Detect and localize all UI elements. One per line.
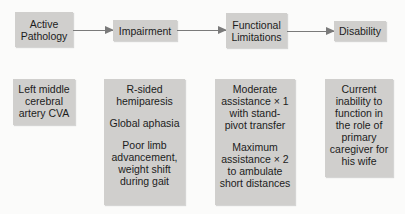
detail-line: assistance × 2 <box>220 153 291 165</box>
detail-paragraph: Current inability to function in the rol… <box>330 83 388 167</box>
detail-line: function in <box>330 107 388 119</box>
detail-line: with stand- <box>221 107 288 119</box>
detail-line: Poor limb <box>112 139 178 151</box>
detail-paragraph: Left middle cerebral artery CVA <box>18 83 69 119</box>
detail-line: assistance × 1 <box>221 95 288 107</box>
detail-line: R-sided <box>116 83 173 95</box>
detail-line: during gait <box>112 175 178 187</box>
detail-paragraph: Poor limb advancement, weight shift duri… <box>112 139 178 187</box>
detail-line: primary <box>330 131 388 143</box>
detail-line: pivot transfer <box>221 119 288 131</box>
detail-line: caregiver for <box>330 143 388 155</box>
detail-line: inability to <box>330 95 388 107</box>
detail-line: to ambulate <box>220 165 291 177</box>
detail-line: hemiparesis <box>116 95 173 107</box>
header-impairment: Impairment <box>113 20 177 41</box>
detail-line: short distances <box>220 177 291 189</box>
detail-line: Maximum <box>220 141 291 153</box>
detail-paragraph: Maximum assistance × 2 to ambulate short… <box>220 141 291 189</box>
header-text: Disability <box>339 25 381 37</box>
detail-functional-limitations: Moderate assistance × 1 with stand- pivo… <box>215 79 295 205</box>
header-disability: Disability <box>334 21 386 41</box>
header-text: Pathology <box>21 30 68 42</box>
header-active-pathology: Active Pathology <box>15 12 73 47</box>
detail-line: Moderate <box>221 83 288 95</box>
header-functional-limitations: Functional Limitations <box>226 13 287 48</box>
arrow-right <box>287 31 334 32</box>
arrow-right <box>177 30 226 31</box>
detail-line: advancement, <box>112 151 178 163</box>
detail-line: artery CVA <box>18 107 69 119</box>
detail-paragraph: R-sided hemiparesis <box>116 83 173 107</box>
detail-disability: Current inability to function in the rol… <box>325 79 393 177</box>
detail-active-pathology: Left middle cerebral artery CVA <box>13 79 75 125</box>
arrow-right <box>73 30 113 31</box>
header-text: Functional <box>232 19 280 31</box>
detail-paragraph: Moderate assistance × 1 with stand- pivo… <box>221 83 288 131</box>
detail-line: his wife <box>330 155 388 167</box>
detail-paragraph: Global aphasia <box>109 117 179 129</box>
header-text: Limitations <box>231 31 281 43</box>
detail-line: Global aphasia <box>109 117 179 129</box>
detail-line: Current <box>330 83 388 95</box>
detail-line: cerebral <box>18 95 69 107</box>
detail-line: weight shift <box>112 163 178 175</box>
detail-impairment: R-sided hemiparesis Global aphasia Poor … <box>104 79 185 205</box>
header-text: Impairment <box>119 25 172 37</box>
header-text: Active <box>30 18 59 30</box>
detail-line: Left middle <box>18 83 69 95</box>
detail-line: the role of <box>330 119 388 131</box>
